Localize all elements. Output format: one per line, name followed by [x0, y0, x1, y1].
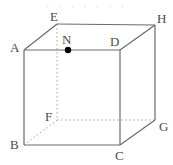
edge-AE — [24, 24, 57, 50]
cube-svg-canvas — [0, 0, 173, 165]
cube-figure: · · · · · · · ABCDEFGHN — [0, 0, 173, 165]
vertex-label-e: E — [50, 10, 58, 23]
edge-DH — [120, 25, 155, 50]
edge-BF — [24, 120, 57, 145]
point-markers-group — [65, 47, 71, 53]
edge-EH — [57, 24, 155, 25]
vertex-label-a: A — [10, 41, 19, 54]
point-label-n: N — [62, 33, 71, 46]
vertex-label-f: F — [45, 110, 52, 123]
vertex-label-g: G — [159, 120, 168, 133]
vertex-label-d: D — [110, 35, 119, 48]
edge-CG — [120, 120, 155, 145]
vertex-label-c: C — [115, 149, 124, 162]
visible-edges-group — [24, 24, 155, 145]
vertex-label-b: B — [10, 138, 19, 151]
point-marker-n — [65, 47, 71, 53]
hidden-edges-group — [24, 24, 155, 145]
vertex-label-h: H — [157, 12, 166, 25]
